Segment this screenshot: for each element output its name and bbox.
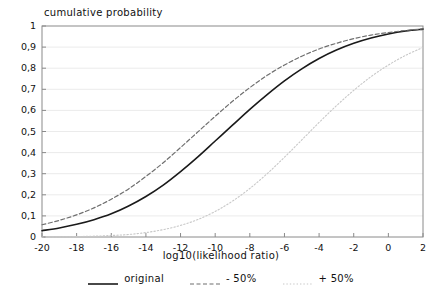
chart-figure: cumulative probability 00,10,20,30,40,50… (0, 0, 442, 301)
x-axis-title: log10(likelihood ratio) (0, 250, 442, 261)
legend-item-label: + 50% (319, 273, 354, 284)
y-axis-tick-label: 0,9 (4, 41, 36, 52)
data-series-line-1 (42, 29, 423, 225)
legend-line-sample-icon (88, 274, 118, 284)
y-axis-tick-label: 0 (4, 231, 36, 242)
y-axis-tick-label: 0,6 (4, 104, 36, 115)
y-axis-tick-label: 0,4 (4, 147, 36, 158)
legend-item-50[interactable]: + 50% (283, 273, 354, 284)
legend-item-original[interactable]: original (88, 273, 164, 284)
y-axis-tick-label: 0,7 (4, 83, 36, 94)
legend-item-label: - 50% (226, 273, 257, 284)
chart-legend: original- 50%+ 50% (0, 273, 442, 284)
y-axis-tick-label: 0,5 (4, 126, 36, 137)
legend-line-sample-icon (283, 274, 313, 284)
y-axis-tick-label: 0,8 (4, 62, 36, 73)
data-series-line-0 (42, 29, 423, 231)
legend-item-50[interactable]: - 50% (190, 273, 257, 284)
legend-item-label: original (124, 273, 164, 284)
y-axis-tick-label: 0,3 (4, 168, 36, 179)
legend-line-sample-icon (190, 274, 220, 284)
y-axis-tick-label: 0,2 (4, 189, 36, 200)
y-axis-tick-label: 0,1 (4, 210, 36, 221)
y-axis-tick-label: 1 (4, 20, 36, 31)
data-series-line-2 (42, 48, 423, 237)
